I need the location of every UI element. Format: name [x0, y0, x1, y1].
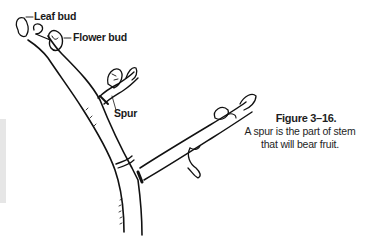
- caption-line-1: A spur is the part of stem: [234, 125, 366, 138]
- figure-caption: Figure 3–16. A spur is the part of stem …: [246, 112, 366, 151]
- spur-label: Spur: [114, 107, 137, 119]
- flower-bud-label: Flower bud: [73, 31, 127, 43]
- caption-title: Figure 3–16.: [246, 112, 366, 125]
- caption-line-2: that will bear fruit.: [234, 138, 366, 151]
- leaf-bud-label: Leaf bud: [34, 10, 76, 22]
- spur-figure: Leaf bud Flower bud Spur Figure 3–16. A …: [0, 0, 368, 250]
